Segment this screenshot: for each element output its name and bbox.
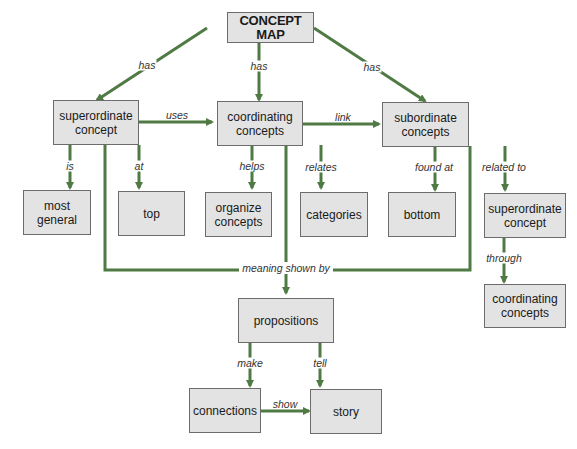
link-label-meaning-shown-by: meaning shown by: [239, 262, 333, 274]
node-subordinate-concepts: subordinate concepts: [382, 102, 469, 147]
link-label-show: show: [272, 399, 299, 410]
link-label-through: through: [485, 253, 523, 264]
link-label-tell: tell: [312, 358, 327, 369]
link-label-is: is: [65, 161, 75, 172]
link-label-at: at: [134, 161, 145, 172]
link-label-make: make: [236, 358, 264, 369]
link-label-has-left: has: [138, 60, 157, 71]
link-label-relates: relates: [304, 162, 338, 173]
link-label-uses: uses: [165, 110, 189, 121]
node-coordinating-concepts: coordinating concepts: [217, 101, 303, 146]
node-organize-concepts: organize concepts: [205, 192, 272, 237]
node-most-general: most general: [23, 190, 91, 235]
link-label-helps: helps: [238, 161, 265, 172]
node-categories: categories: [300, 192, 368, 237]
node-superordinate-concept: superordinate concept: [53, 100, 139, 145]
link-label-has-mid: has: [250, 61, 269, 72]
node-concept-map: CONCEPT MAP: [227, 12, 314, 43]
link-label-found-at: found at: [414, 162, 454, 173]
link-label-link: link: [334, 112, 352, 123]
link-label-has-right: has: [363, 62, 382, 73]
node-story: story: [310, 389, 382, 434]
node-top: top: [118, 191, 185, 236]
link-label-related-to: related to: [481, 162, 527, 173]
node-connections: connections: [189, 388, 261, 433]
node-superordinate-concept-2: superordinate concept: [484, 193, 566, 238]
node-coordinating-concepts-2: coordinating concepts: [484, 284, 566, 328]
node-bottom: bottom: [388, 192, 456, 237]
node-propositions: propositions: [238, 298, 334, 343]
